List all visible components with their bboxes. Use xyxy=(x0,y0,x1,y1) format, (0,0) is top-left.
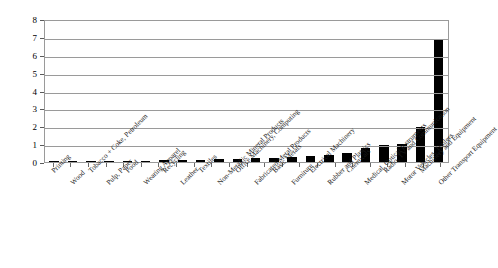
gridline xyxy=(45,75,448,76)
gridline xyxy=(45,39,448,40)
gridline xyxy=(45,110,448,111)
bar-slot xyxy=(375,21,393,162)
y-tick-label: 6 xyxy=(33,51,38,60)
y-tick-label: 7 xyxy=(33,33,38,42)
gridline xyxy=(45,128,448,129)
y-axis: 876543210 xyxy=(0,0,44,183)
bar xyxy=(68,161,78,162)
y-tick-label: 1 xyxy=(33,141,38,150)
gridline xyxy=(45,93,448,94)
plot-area xyxy=(44,20,449,163)
bar-slot xyxy=(45,21,63,162)
bar-slot xyxy=(82,21,100,162)
category-labels: PrintingWoodTobacco + Coke, PetroleumPul… xyxy=(0,163,454,268)
category-label: Wood xyxy=(69,169,87,187)
bar-slot xyxy=(63,21,81,162)
bars-layer xyxy=(45,21,448,162)
bar-slot xyxy=(210,21,228,162)
y-tick-label: 3 xyxy=(33,105,38,114)
bar-slot xyxy=(155,21,173,162)
gridline xyxy=(45,146,448,147)
bar-slot xyxy=(137,21,155,162)
y-tick-label: 5 xyxy=(33,69,38,78)
bar xyxy=(306,156,316,162)
y-tick-label: 8 xyxy=(33,16,38,25)
bar xyxy=(141,161,151,162)
y-tick-label: 4 xyxy=(33,87,38,96)
y-tick-label: 2 xyxy=(33,123,38,132)
gridline xyxy=(45,57,448,58)
bar-slot xyxy=(173,21,191,162)
bar-slot xyxy=(192,21,210,162)
bar-slot xyxy=(228,21,246,162)
